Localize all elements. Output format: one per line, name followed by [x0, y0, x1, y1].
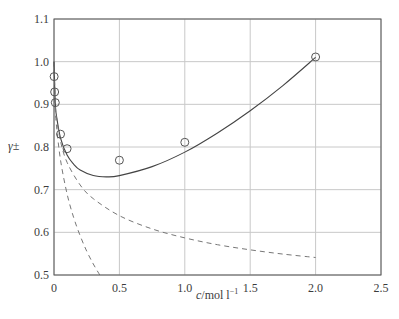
y-axis-tick-labels: 0.50.60.70.80.91.01.1 [34, 12, 49, 282]
theory-dashed-curve [54, 62, 100, 275]
x-tick-label: 0.5 [112, 281, 127, 295]
y-tick-label: 0.8 [34, 140, 49, 154]
y-tick-label: 0.5 [34, 268, 49, 282]
y-axis-label: γ± [8, 139, 20, 153]
x-tick-label: 2.5 [374, 281, 389, 295]
x-tick-label: 0 [51, 281, 57, 295]
grid-lines [54, 19, 381, 275]
x-tick-label: 1.0 [177, 281, 192, 295]
x-axis-label-exponent: −1 [230, 287, 239, 296]
y-tick-label: 0.9 [34, 97, 49, 111]
x-tick-label: 1.5 [243, 281, 258, 295]
y-tick-label: 1.0 [34, 55, 49, 69]
x-axis-label-unit: /mol l [201, 288, 230, 302]
y-tick-label: 1.1 [34, 12, 49, 26]
y-tick-label: 0.6 [34, 225, 49, 239]
x-tick-label: 2.0 [308, 281, 323, 295]
activity-coefficient-chart: 00.51.01.52.02.5 0.50.60.70.80.91.01.1 γ… [0, 0, 399, 319]
y-tick-label: 0.7 [34, 183, 49, 197]
x-axis-label: c/mol l−1 [196, 287, 238, 302]
